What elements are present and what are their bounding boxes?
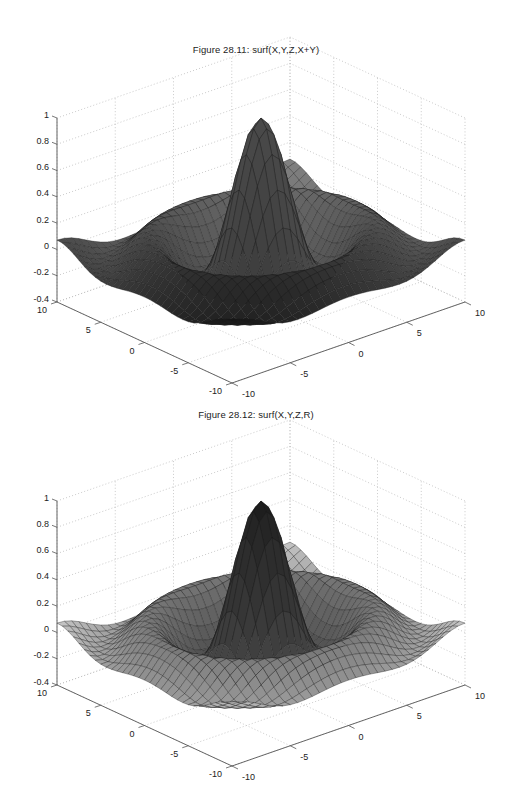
z-tick-label: -0.4 xyxy=(33,677,49,687)
y-tick-label: 5 xyxy=(86,708,91,718)
z-tick-label: 1 xyxy=(44,110,49,120)
z-tick-label: -0.2 xyxy=(33,650,49,660)
surface-plot-2: -0.4-0.200.20.40.60.811050-5-10-10-50510 xyxy=(0,383,512,803)
y-tick-label: -5 xyxy=(170,366,178,376)
x-tick-label: 0 xyxy=(359,349,364,359)
surface-plot-2-canvas: -0.4-0.200.20.40.60.811050-5-10-10-50510 xyxy=(0,383,512,803)
y-tick-label: 10 xyxy=(37,305,47,315)
z-tick-label: 0.8 xyxy=(36,519,49,529)
z-tick-label: -0.2 xyxy=(33,267,49,277)
x-tick-label: 10 xyxy=(475,691,485,701)
y-tick-label: 10 xyxy=(37,688,47,698)
z-tick-label: 0.8 xyxy=(36,136,49,146)
x-tick-label: -5 xyxy=(300,369,308,379)
z-tick-label: 0.6 xyxy=(36,162,49,172)
y-tick-label: -10 xyxy=(209,769,222,779)
z-tick-label: 1 xyxy=(44,493,49,503)
x-tick-label: 0 xyxy=(359,732,364,742)
z-tick-label: 0.2 xyxy=(36,598,49,608)
x-tick-label: -5 xyxy=(300,752,308,762)
surface-plot-1-canvas: -0.4-0.200.20.40.60.811050-5-10-10-50510 xyxy=(0,0,512,420)
z-tick-label: 0 xyxy=(44,624,49,634)
x-tick-label: 10 xyxy=(475,308,485,318)
z-tick-label: 0.4 xyxy=(36,571,49,581)
z-tick-label: 0.2 xyxy=(36,215,49,225)
z-tick-label: -0.4 xyxy=(33,294,49,304)
z-tick-label: 0 xyxy=(44,241,49,251)
y-tick-label: 5 xyxy=(86,325,91,335)
z-tick-label: 0.6 xyxy=(36,545,49,555)
x-tick-label: 5 xyxy=(417,711,422,721)
y-tick-label: -5 xyxy=(170,749,178,759)
x-tick-label: -10 xyxy=(242,772,255,782)
z-tick-label: 0.4 xyxy=(36,188,49,198)
surface-plot-1: -0.4-0.200.20.40.60.811050-5-10-10-50510 xyxy=(0,0,512,420)
y-tick-label: 0 xyxy=(129,729,134,739)
x-tick-label: 5 xyxy=(417,328,422,338)
y-tick-label: 0 xyxy=(129,346,134,356)
